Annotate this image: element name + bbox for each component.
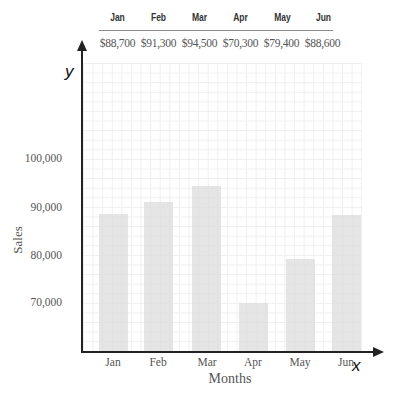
header-value-jun: $88,600 (302, 37, 343, 49)
x-tick-label: May (280, 356, 320, 368)
bar-mar (192, 186, 221, 352)
y-axis-title: Sales (10, 220, 26, 260)
bar-apr (239, 303, 268, 352)
header-value-jan: $88,700 (97, 37, 138, 49)
y-axis-arrow-icon (77, 40, 87, 51)
x-tick-label: Feb (138, 356, 178, 368)
y-axis-symbol: y (65, 62, 74, 82)
x-tick-label: Jan (93, 356, 133, 368)
header-month-mar: Mar (182, 12, 217, 23)
header-month-jun: Jun (306, 12, 341, 23)
bar-may (286, 259, 315, 352)
bar-feb (144, 202, 173, 352)
x-tick-label: Apr (233, 356, 273, 368)
header-month-apr: Apr (223, 12, 258, 23)
y-tick-label: 90,000 (0, 201, 62, 213)
header-divider (99, 30, 333, 31)
y-tick-label: 100,000 (0, 152, 62, 164)
header-value-may: $79,400 (261, 37, 302, 49)
sales-chart: Jan Feb Mar Apr May Jun $88,700 $91,300 … (0, 0, 396, 396)
bar-jun (332, 215, 361, 352)
x-tick-label: Jun (326, 356, 366, 368)
header-value-mar: $94,500 (179, 37, 220, 49)
header-month-jan: Jan (100, 12, 135, 23)
header-value-feb: $91,300 (138, 37, 179, 49)
x-tick-label: Mar (187, 356, 227, 368)
y-tick-label: 70,000 (0, 296, 62, 308)
x-axis-title: Months (190, 371, 270, 387)
y-axis-line (81, 48, 83, 353)
header-value-apr: $70,300 (220, 37, 261, 49)
header-month-feb: Feb (141, 12, 176, 23)
header-month-may: May (265, 12, 300, 23)
x-axis-arrow-icon (373, 347, 384, 357)
x-axis-line (81, 351, 376, 353)
bar-jan (99, 214, 128, 352)
